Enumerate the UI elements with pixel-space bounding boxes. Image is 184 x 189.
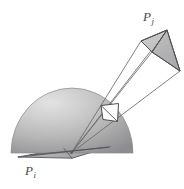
origin-point-marker (70, 152, 72, 154)
label-pj-subscript: j (151, 16, 154, 26)
label-pi: Pi (25, 164, 36, 180)
label-pi-base: P (25, 163, 33, 178)
label-pj-base: P (143, 9, 151, 24)
label-pi-subscript: i (33, 170, 36, 180)
projected-patch-on-dome (101, 104, 119, 122)
far-surface-patch (141, 30, 180, 71)
label-pj: Pj (143, 10, 154, 26)
figure-canvas (0, 0, 184, 189)
geometry-figure: Pj Pi (0, 0, 184, 189)
